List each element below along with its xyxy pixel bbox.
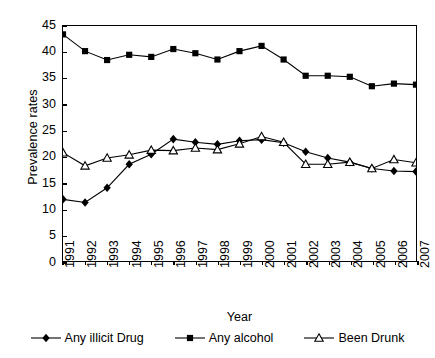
series-layer xyxy=(63,26,416,262)
legend-label: Any illicit Drug xyxy=(65,331,144,345)
y-tick-label: 35 xyxy=(42,70,56,84)
y-tick-label: 45 xyxy=(42,18,56,32)
x-tick-label: 2003 xyxy=(329,240,343,268)
y-tick-mark xyxy=(63,210,67,211)
x-tick-label: 2001 xyxy=(285,240,299,268)
legend-label: Been Drunk xyxy=(338,331,404,345)
y-tick-mark xyxy=(63,78,67,79)
legend-label: Any alcohol xyxy=(209,331,274,345)
legend-key-filled-square-icon xyxy=(175,332,205,344)
x-tick-label: 2002 xyxy=(307,240,321,268)
y-axis-title: Prevalence rates xyxy=(26,57,40,217)
legend-key-filled-diamond-icon xyxy=(31,332,61,344)
x-tick-label: 2005 xyxy=(374,240,388,268)
y-tick-label: 25 xyxy=(42,123,56,137)
y-tick-mark xyxy=(63,183,67,184)
x-tick-label: 1993 xyxy=(107,240,121,268)
y-tick-label: 10 xyxy=(42,202,56,216)
y-tick-mark xyxy=(63,25,67,26)
chart-legend: Any illicit DrugAny alcoholBeen Drunk xyxy=(0,331,435,345)
y-tick-label: 0 xyxy=(49,255,56,269)
y-tick-label: 30 xyxy=(42,97,56,111)
x-tick-label: 1992 xyxy=(85,240,99,268)
x-tick-label: 1998 xyxy=(218,240,232,268)
x-tick-label: 2004 xyxy=(351,240,365,268)
x-tick-label: 2007 xyxy=(418,240,432,268)
x-axis-title: Year xyxy=(62,310,417,324)
y-tick-label: 20 xyxy=(42,149,56,163)
series-any-alcohol xyxy=(63,31,416,89)
y-tick-mark xyxy=(63,157,67,158)
x-tick-label: 2006 xyxy=(396,240,410,268)
y-tick-mark xyxy=(63,52,67,53)
y-tick-mark xyxy=(63,104,67,105)
y-tick-mark xyxy=(63,131,67,132)
x-tick-label: 1996 xyxy=(174,240,188,268)
plot-area: 0510152025303540451991199219931994199519… xyxy=(62,25,417,262)
legend-key-open-triangle-icon xyxy=(304,332,334,344)
y-tick-mark xyxy=(63,236,67,237)
y-tick-label: 40 xyxy=(42,44,56,58)
x-tick-label: 2000 xyxy=(263,240,277,268)
x-tick-label: 1994 xyxy=(130,240,144,268)
legend-item-been-drunk[interactable]: Been Drunk xyxy=(304,331,404,345)
y-tick-label: 15 xyxy=(42,176,56,190)
x-tick-label: 1991 xyxy=(63,240,77,268)
x-tick-label: 1999 xyxy=(241,240,255,268)
legend-item-any-alcohol[interactable]: Any alcohol xyxy=(175,331,274,345)
prevalence-rates-line-chart: Prevalence rates 05101520253035404519911… xyxy=(0,0,435,358)
y-tick-label: 5 xyxy=(49,228,56,242)
x-tick-label: 1995 xyxy=(152,240,166,268)
legend-item-any-illicit-drug[interactable]: Any illicit Drug xyxy=(31,331,144,345)
x-tick-label: 1997 xyxy=(196,240,210,268)
